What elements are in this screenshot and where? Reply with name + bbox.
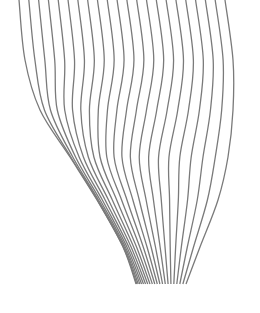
curve-line xyxy=(174,0,194,284)
curve-line xyxy=(149,0,166,284)
curve-lines-group xyxy=(19,0,234,284)
curve-line xyxy=(177,0,204,284)
curve-line xyxy=(78,0,146,284)
line-fan-figure xyxy=(0,0,260,313)
curve-line xyxy=(180,0,214,284)
curve-line xyxy=(19,0,136,284)
curve-line xyxy=(88,0,148,284)
